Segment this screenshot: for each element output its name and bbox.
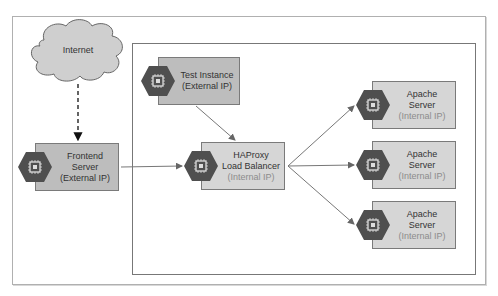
compute-chip-icon [355,149,391,181]
node-line2: Server [409,100,436,111]
node-line3: (Internal IP) [398,171,445,182]
node-line2: Server [72,162,99,173]
compute-chip-icon [183,150,219,182]
edge-frontend-haproxy [121,166,182,167]
node-line1: Test Instance [180,70,233,81]
compute-chip-icon [355,209,391,241]
node-line1: Apache [407,209,438,220]
node-line1: Apache [407,89,438,100]
edge-haproxy-apache2 [288,165,354,166]
compute-chip-icon [140,65,176,97]
node-line2: (External IP) [182,81,232,92]
node-line3: (Internal IP) [398,111,445,122]
node-line3: (Internal IP) [398,231,445,242]
edge-haproxy-apache3 [288,166,354,224]
node-line1: Apache [407,149,438,160]
node-line2: Load Balancer [222,161,280,172]
edge-test-haproxy [196,106,235,140]
node-line1: Frontend [67,151,103,162]
compute-chip-icon [355,89,391,121]
node-line2: Server [409,220,436,231]
node-line2: Server [409,160,436,171]
node-line3: (External IP) [60,173,110,184]
node-line1: HAProxy [233,150,269,161]
internet-label: Internet [48,45,108,55]
node-line3: (Internal IP) [227,172,274,183]
edge-haproxy-apache1 [288,106,354,166]
compute-chip-icon [17,151,53,183]
